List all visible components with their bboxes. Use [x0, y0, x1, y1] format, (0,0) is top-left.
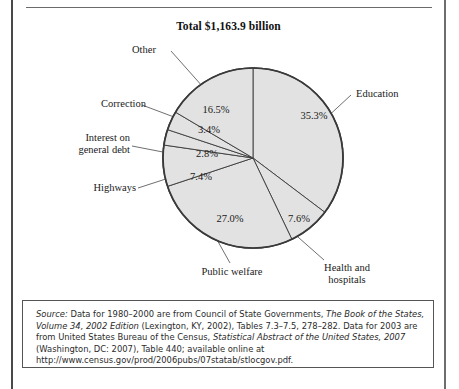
pie-chart-figure: Total $1,163.9 billion Other Correction … [12, 10, 445, 300]
slice-label-interest-on-general-debt: Interest on general debt [50, 132, 130, 156]
interest-label-line2: general debt [78, 144, 130, 155]
slice-value-education: 35.3% [288, 110, 340, 122]
interest-label-line1: Interest on [85, 132, 130, 143]
slice-value-correction: 3.4% [188, 124, 230, 136]
source-label: Source: [36, 309, 68, 319]
slice-label-public-welfare: Public welfare [180, 266, 284, 278]
slice-value-health: 7.6% [278, 213, 320, 225]
slice-label-correction: Correction [76, 98, 146, 110]
slice-value-public-welfare: 27.0% [204, 213, 256, 225]
top-horizontal-rule [26, 7, 432, 8]
slice-value-interest: 2.8% [186, 148, 228, 160]
slice-label-highways: Highways [66, 182, 136, 194]
slice-label-health-and-hospitals: Health and hospitals [310, 262, 384, 286]
slice-value-highways: 7.4% [180, 171, 222, 183]
slice-label-education: Education [356, 88, 399, 100]
health-label-line2: hospitals [328, 274, 365, 285]
source-note-text: Source: Data for 1980–2000 are from Coun… [36, 309, 428, 367]
source-title-statistical-abstract: Statistical Abstract of the United State… [213, 332, 405, 342]
source-line1a: Data for 1980–2000 are from Council of S… [68, 309, 326, 319]
source-url: http://www.census.gov/prod/2006pubs/07st… [36, 355, 293, 365]
health-label-line1: Health and [324, 262, 370, 273]
slice-value-other: 16.5% [190, 104, 242, 116]
source-line2b: (Washington, DC: 2007), Table 440; avail… [36, 344, 264, 354]
slice-label-other: Other [132, 44, 156, 56]
